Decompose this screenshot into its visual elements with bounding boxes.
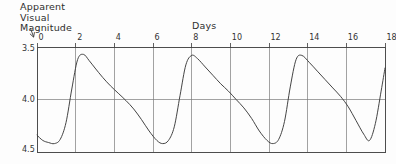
- x-tick-label: 16: [348, 33, 358, 42]
- x-tick-label: 2: [77, 33, 82, 42]
- plot-frame: [37, 43, 385, 152]
- y-tick-label: 4.5: [22, 145, 35, 154]
- x-tick-label: 10: [232, 33, 242, 42]
- x-tick-label: 18: [387, 33, 396, 42]
- y-axis-title: Apparent Visual Magnitude: [20, 2, 72, 34]
- x-tick-label: 8: [193, 33, 198, 42]
- x-tick-label: 0: [39, 33, 44, 42]
- x-tick-label: 12: [271, 33, 281, 42]
- grid-lines: [37, 47, 385, 152]
- y-tick-label: 4.0: [22, 95, 35, 104]
- x-tick-label: 4: [116, 33, 121, 42]
- light-curve-figure: Apparent Visual Magnitude Days 024681012…: [0, 0, 396, 164]
- light-curve-line: [37, 54, 385, 143]
- x-tick-label: 6: [155, 33, 160, 42]
- y-tick-label: 3.5: [22, 44, 35, 53]
- x-tick-label: 14: [309, 33, 319, 42]
- x-axis-title: Days: [192, 21, 217, 32]
